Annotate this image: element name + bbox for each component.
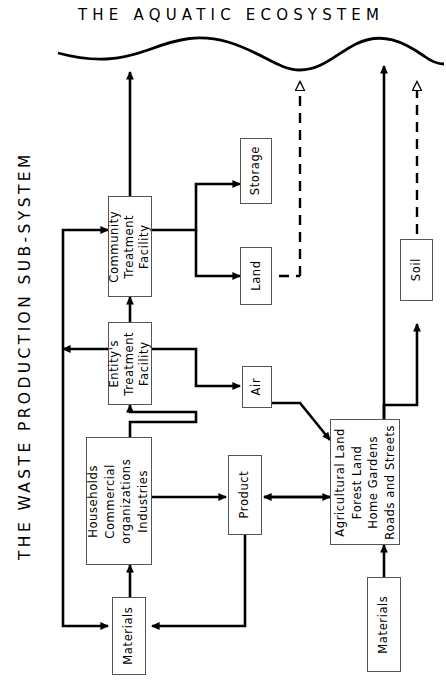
box-product-label: Product xyxy=(237,471,252,519)
box-entity-treatment[interactable]: Entity'sTreatmentFacility xyxy=(108,322,152,405)
arrow-households-to-entity xyxy=(130,405,196,437)
arrow-community-to-land xyxy=(196,230,240,276)
box-materials-right[interactable]: Materials xyxy=(367,577,401,672)
arrow-spine-to-community xyxy=(63,230,108,349)
box-land-uses-label: Agricultural LandForest LandHome Gardens… xyxy=(332,425,399,540)
box-land-uses[interactable]: Agricultural LandForest LandHome Gardens… xyxy=(330,419,400,545)
box-land[interactable]: Land xyxy=(240,247,272,305)
arrow-landuse-to-soil xyxy=(384,324,417,419)
box-materials-left-label: Materials xyxy=(121,607,136,665)
box-land-label: Land xyxy=(248,261,263,291)
box-air[interactable]: Air xyxy=(242,366,272,408)
box-households-label: HouseholdsCommercialorganizationsIndustr… xyxy=(86,458,153,543)
box-entity-treatment-label: Entity'sTreatmentFacility xyxy=(107,332,153,396)
box-product[interactable]: Product xyxy=(228,455,262,535)
box-storage-label: Storage xyxy=(248,146,263,195)
aquatic-wave xyxy=(58,38,444,70)
arrow-air-to-landuse xyxy=(272,403,330,440)
arrow-entity-to-air xyxy=(152,349,240,386)
box-air-label: Air xyxy=(249,378,264,396)
box-community-treatment[interactable]: CommunityTreatmentFacility xyxy=(108,196,152,297)
box-community-treatment-label: CommunityTreatmentFacility xyxy=(107,211,153,283)
diagram-canvas: THE AQUATIC ECOSYSTEM THE WASTE PRODUCTI… xyxy=(0,0,446,687)
box-households[interactable]: HouseholdsCommercialorganizationsIndustr… xyxy=(86,437,152,565)
box-soil-label: Soil xyxy=(409,258,424,281)
arrow-community-to-storage xyxy=(152,184,240,230)
arrow-product-to-materials xyxy=(152,535,245,626)
box-materials-left[interactable]: Materials xyxy=(112,597,146,675)
box-storage[interactable]: Storage xyxy=(240,138,272,204)
box-soil[interactable]: Soil xyxy=(400,239,433,301)
box-materials-right-label: Materials xyxy=(376,595,391,653)
